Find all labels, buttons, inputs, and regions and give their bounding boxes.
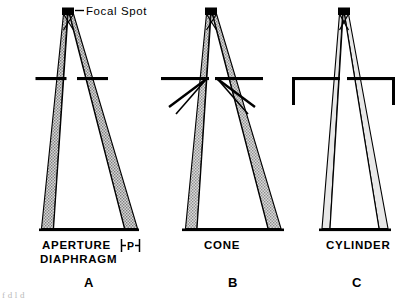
cut-off-caption-fragment: f d l d: [2, 291, 302, 300]
focal-spot-label: Focal Spot: [86, 5, 147, 17]
xray-beam-penumbra-figure: Focal Spot APERTURE DIAPHRAGM P A: [0, 0, 412, 301]
device-label-a-line1: APERTURE: [42, 239, 111, 251]
diaphragm-plate-right-a: [77, 77, 108, 80]
device-label-a-line2: DIAPHRAGM: [40, 253, 117, 265]
panel-letter-c: C: [352, 275, 362, 290]
panel-letter-b: B: [228, 275, 237, 290]
panel-letter-a: A: [84, 275, 94, 290]
receptor-baseline-b: [182, 229, 284, 232]
cylinder-wall-right-c: [392, 77, 395, 105]
receptor-baseline-a: [39, 229, 139, 232]
device-label-b: CONE: [204, 239, 240, 251]
device-label-c: CYLINDER: [326, 239, 390, 251]
penumbra-symbol-label: P: [127, 240, 134, 252]
focal-spot-c: [338, 8, 350, 16]
cylinder-flange-left-c: [292, 77, 340, 80]
cone-flange-left-b: [161, 77, 209, 80]
cylinder-wall-left-c: [292, 77, 295, 105]
receptor-baseline-c: [319, 229, 391, 232]
focal-spot-a: [62, 8, 74, 16]
cylinder-flange-right-c: [347, 77, 395, 80]
focal-spot-b: [205, 8, 217, 16]
diaphragm-plate-left-a: [36, 77, 67, 80]
cone-flange-right-b: [215, 77, 263, 80]
